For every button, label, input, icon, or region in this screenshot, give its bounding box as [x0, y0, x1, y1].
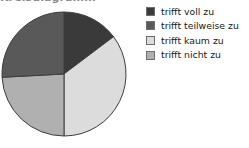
pie-slice-trifft-teilweise-zu[interactable]: [2, 12, 64, 77]
legend-item-trifft-voll-zu[interactable]: trifft voll zu: [146, 4, 249, 19]
legend-swatch-trifft-teilweise-zu: [146, 21, 155, 30]
legend-swatch-trifft-kaum-zu: [146, 36, 155, 45]
legend-swatch-trifft-voll-zu: [146, 7, 155, 16]
chart-figure: Kreisdiagramm trifft voll zutrifft teilw…: [0, 0, 249, 148]
legend-item-label: trifft nicht zu: [161, 50, 221, 59]
legend-item-trifft-teilweise-zu[interactable]: trifft teilweise zu: [146, 19, 249, 34]
legend-item-label: trifft kaum zu: [161, 36, 224, 45]
legend-item-trifft-nicht-zu[interactable]: trifft nicht zu: [146, 48, 249, 63]
chart-title-clipped: Kreisdiagramm: [0, 0, 135, 4]
pie-chart-svg: [0, 9, 134, 143]
legend-item-trifft-kaum-zu[interactable]: trifft kaum zu: [146, 33, 249, 48]
pie-chart: [0, 9, 134, 143]
pie-slice-trifft-nicht-zu[interactable]: [2, 74, 64, 136]
legend-item-label: trifft voll zu: [161, 7, 214, 16]
legend-item-label: trifft teilweise zu: [161, 21, 239, 30]
legend-swatch-trifft-nicht-zu: [146, 51, 155, 60]
chart-legend: trifft voll zutrifft teilweise zutrifft …: [146, 4, 249, 62]
page-title: Kreisdiagramm: [0, 0, 135, 4]
pie-slice-group: [2, 12, 126, 136]
